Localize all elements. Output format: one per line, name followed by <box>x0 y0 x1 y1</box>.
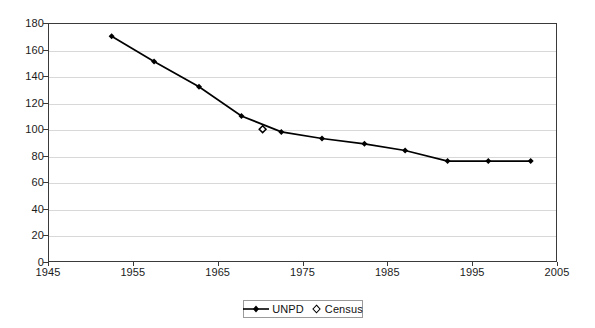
y-tick-label: 140 <box>0 70 44 82</box>
y-tick-label: 20 <box>0 229 44 241</box>
y-tick-label: 120 <box>0 97 44 109</box>
gridline <box>49 51 556 52</box>
y-tick-mark <box>43 156 48 157</box>
gridline <box>49 157 556 158</box>
x-tick-label: 1975 <box>290 266 315 278</box>
legend-label-unpd: UNPD <box>272 303 304 315</box>
census-diamond-marker-icon <box>311 304 322 314</box>
y-tick-mark <box>43 182 48 183</box>
gridline <box>49 104 556 105</box>
x-tick-mark <box>387 262 388 266</box>
chart-container: 020406080100120140160180 194519551965197… <box>0 0 595 328</box>
y-tick-label: 60 <box>0 176 44 188</box>
gridline <box>49 77 556 78</box>
y-tick-label: 160 <box>0 44 44 56</box>
y-tick-label: 180 <box>0 17 44 29</box>
y-tick-mark <box>43 209 48 210</box>
y-tick-mark <box>43 23 48 24</box>
y-tick-label: 80 <box>0 150 44 162</box>
y-tick-label: 100 <box>0 123 44 135</box>
x-tick-label: 1955 <box>120 266 145 278</box>
gridline <box>49 210 556 211</box>
x-tick-mark <box>303 262 304 266</box>
gridline <box>49 130 556 131</box>
x-tick-mark <box>218 262 219 266</box>
y-tick-label: 40 <box>0 203 44 215</box>
x-tick-mark <box>557 262 558 266</box>
x-tick-label: 1985 <box>375 266 400 278</box>
gridline <box>49 183 556 184</box>
x-tick-mark <box>133 262 134 266</box>
x-tick-label: 2005 <box>545 266 570 278</box>
unpd-line-marker-icon <box>243 304 269 314</box>
y-tick-mark <box>43 103 48 104</box>
legend-label-census: Census <box>325 303 363 315</box>
x-tick-mark <box>48 262 49 266</box>
x-tick-label: 1945 <box>36 266 61 278</box>
plot-area <box>48 23 557 262</box>
y-tick-mark <box>43 235 48 236</box>
chart-legend: UNPD Census <box>243 300 363 318</box>
y-tick-mark <box>43 50 48 51</box>
x-tick-label: 1965 <box>205 266 230 278</box>
x-tick-mark <box>472 262 473 266</box>
y-tick-mark <box>43 129 48 130</box>
legend-item-unpd: UNPD <box>243 303 304 315</box>
gridline <box>49 236 556 237</box>
x-tick-label: 1995 <box>460 266 485 278</box>
y-tick-mark <box>43 76 48 77</box>
legend-item-census: Census <box>311 303 363 315</box>
